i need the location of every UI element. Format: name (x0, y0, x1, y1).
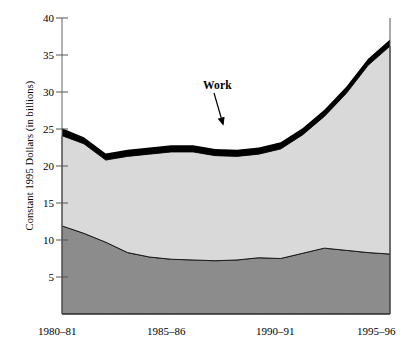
stacked-area-chart: Constant 1995 Dollars (in billions) 40 3… (0, 0, 407, 350)
plot-area (0, 0, 407, 350)
work-annotation-arrow (214, 93, 223, 124)
stacked-area-bands (62, 39, 390, 314)
